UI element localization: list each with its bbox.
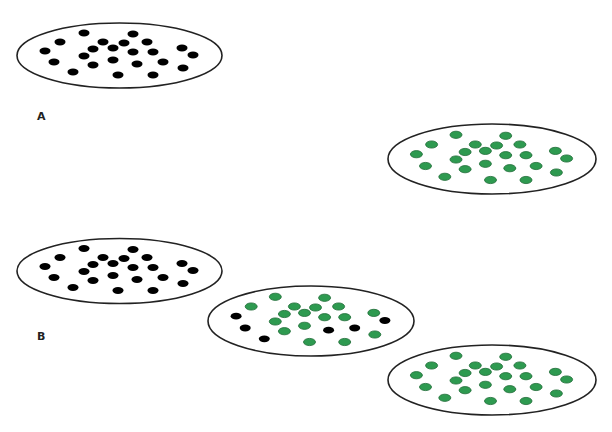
dish-a-after	[388, 124, 596, 194]
green-dot	[520, 397, 532, 404]
black-dot	[79, 53, 90, 60]
green-dot	[450, 352, 462, 359]
black-dot	[88, 261, 99, 268]
green-dot	[550, 169, 562, 176]
green-dot	[319, 314, 331, 321]
black-dot	[68, 284, 79, 291]
black-dot	[98, 39, 109, 46]
green-dot	[439, 173, 451, 180]
black-dot	[119, 40, 130, 47]
black-dot	[55, 39, 66, 46]
green-dot	[491, 142, 503, 149]
black-dot	[177, 260, 188, 267]
green-dot	[269, 318, 281, 325]
black-dot	[188, 267, 199, 274]
black-dot	[79, 30, 90, 37]
black-dot	[128, 264, 139, 271]
green-dot	[504, 165, 516, 172]
green-dot	[491, 363, 503, 370]
black-dot	[98, 254, 109, 261]
black-dot	[108, 260, 119, 267]
green-dot	[319, 294, 331, 301]
green-dot	[459, 369, 471, 376]
black-dot	[148, 287, 159, 294]
black-dot	[128, 31, 139, 38]
green-dot	[561, 155, 573, 162]
black-dot	[79, 245, 90, 252]
green-dot	[459, 166, 471, 173]
black-dot	[178, 65, 189, 72]
black-dot	[158, 274, 169, 281]
green-dot	[485, 176, 497, 183]
green-dot	[459, 387, 471, 394]
green-dot	[479, 368, 491, 375]
black-dot	[323, 327, 334, 334]
black-dot	[108, 272, 119, 279]
black-dot	[231, 313, 242, 320]
green-dot	[369, 331, 381, 338]
green-dot	[561, 376, 573, 383]
green-dot	[439, 394, 451, 401]
green-dot	[299, 322, 311, 329]
green-dot	[504, 386, 516, 393]
green-dot	[278, 328, 290, 335]
black-dot	[132, 61, 143, 68]
green-dot	[410, 151, 422, 158]
green-dot	[469, 362, 481, 369]
green-dot	[288, 303, 300, 310]
dish-a-before	[17, 23, 222, 88]
dish-b-after	[388, 345, 596, 415]
green-dot	[450, 131, 462, 138]
black-dot	[132, 276, 143, 283]
green-dot	[550, 390, 562, 397]
green-dot	[339, 314, 351, 321]
dish-b-before	[17, 239, 222, 304]
green-dot	[333, 303, 345, 310]
black-dot	[240, 325, 251, 332]
green-dot	[500, 353, 512, 360]
green-dot	[530, 383, 542, 390]
green-dot	[278, 310, 290, 317]
green-dot	[245, 303, 257, 310]
green-dot	[304, 338, 316, 345]
green-dot	[520, 152, 532, 159]
black-dot	[128, 246, 139, 253]
green-dot	[368, 309, 380, 316]
green-dot	[549, 368, 561, 375]
black-dot	[177, 45, 188, 52]
black-dot	[79, 268, 90, 275]
black-dot	[113, 72, 124, 79]
green-dot	[500, 152, 512, 159]
green-dot	[549, 147, 561, 154]
black-dot	[108, 57, 119, 64]
black-dot	[40, 263, 51, 270]
green-dot	[450, 377, 462, 384]
black-dot	[259, 335, 270, 342]
black-dot	[148, 49, 159, 56]
green-dot	[479, 381, 491, 388]
green-dot	[514, 141, 526, 148]
dish-b-middle	[208, 286, 414, 356]
green-dot	[459, 148, 471, 155]
black-dot	[88, 277, 99, 284]
black-dot	[379, 317, 390, 324]
black-dot	[49, 274, 60, 281]
green-dot	[339, 338, 351, 345]
black-dot	[88, 46, 99, 53]
black-dot	[158, 59, 169, 66]
black-dot	[113, 287, 124, 294]
black-dot	[128, 49, 139, 56]
black-dot	[148, 264, 159, 271]
green-dot	[520, 176, 532, 183]
green-dot	[530, 162, 542, 169]
diagram-canvas	[0, 0, 612, 432]
green-dot	[299, 309, 311, 316]
black-dot	[178, 280, 189, 287]
green-dot	[514, 362, 526, 369]
black-dot	[142, 39, 153, 46]
black-dot	[119, 255, 130, 262]
black-dot	[108, 45, 119, 52]
black-dot	[55, 254, 66, 261]
green-dot	[426, 141, 438, 148]
black-dot	[40, 48, 51, 55]
